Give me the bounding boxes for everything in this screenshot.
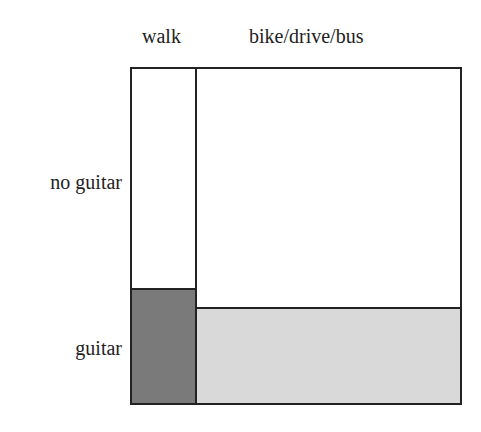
column-label-walk: walk <box>142 26 181 46</box>
cell-walk-guitar <box>130 288 197 405</box>
cell-bike-no-guitar <box>195 67 462 310</box>
cell-walk-no-guitar <box>130 67 197 291</box>
cell-bike-guitar <box>195 307 462 405</box>
column-label-bike-drive-bus: bike/drive/bus <box>249 26 363 46</box>
row-label-no-guitar: no guitar <box>22 172 122 192</box>
row-label-guitar: guitar <box>22 338 122 358</box>
